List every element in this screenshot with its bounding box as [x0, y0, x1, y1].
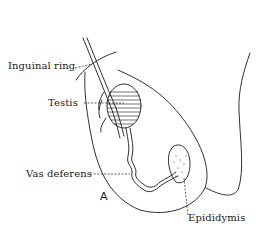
anatomical-diagram: Inguinal ring Testis Vas deferens Epidid…: [0, 0, 260, 233]
panel-letter: A: [100, 190, 108, 203]
label-testis: Testis: [48, 97, 78, 108]
diagram-drawing: [0, 0, 260, 233]
vas-deferens: [126, 128, 178, 192]
testis-shape: [107, 84, 141, 128]
epididymis-shape: [168, 145, 190, 183]
leader-epididymis: [184, 178, 188, 216]
label-epididymis: Epididymis: [188, 212, 245, 223]
label-vas-deferens: Vas deferens: [26, 168, 92, 179]
label-inguinal-ring: Inguinal ring: [8, 60, 75, 71]
